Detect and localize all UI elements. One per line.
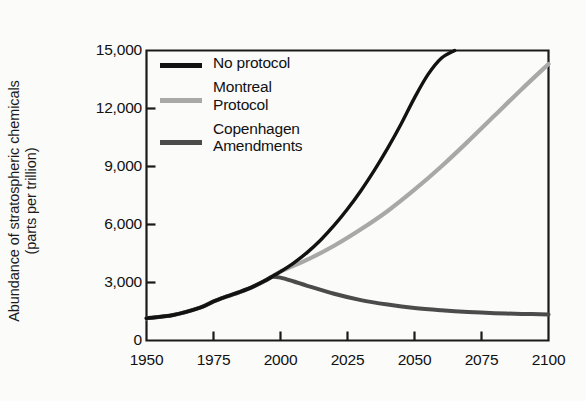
legend-item-label: Copenhagen Amendments — [213, 120, 302, 155]
legend-line-swatch — [160, 140, 202, 145]
legend: No protocolMontreal ProtocolCopenhagen A… — [160, 54, 390, 162]
legend-line-swatch — [160, 98, 202, 103]
chart-figure: Abundance of stratospheric chemicals (pa… — [0, 0, 586, 401]
legend-item-label: No protocol — [213, 54, 290, 71]
legend-item-label: Montreal Protocol — [213, 78, 272, 113]
legend-item: Montreal Protocol — [160, 78, 390, 113]
legend-item: Copenhagen Amendments — [160, 120, 390, 155]
legend-line-swatch — [160, 63, 202, 68]
legend-item: No protocol — [160, 54, 390, 71]
